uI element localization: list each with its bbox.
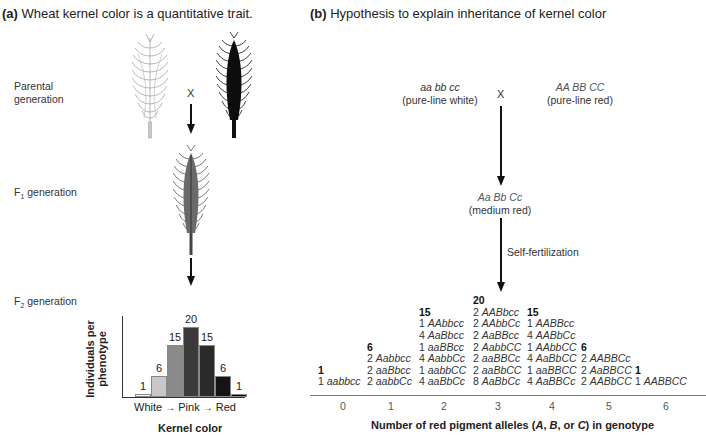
- ylabel-line2: phenotype: [96, 320, 108, 398]
- arrow-f1-to-f2: [190, 258, 192, 278]
- parent-white-desc: (pure-line white): [390, 94, 490, 107]
- histogram-value-3: 20: [180, 313, 202, 325]
- axis-tick-0: 0: [333, 400, 353, 412]
- self-fertilization-label: Self-fertilization: [507, 246, 579, 258]
- f1-generation-label: F1 generation: [14, 186, 77, 203]
- genotype-entry: 4 aaBbCc: [419, 376, 466, 388]
- cross-symbol-b: X: [497, 88, 504, 100]
- right-arrow-icon: →: [165, 402, 175, 413]
- histogram-ylabel: Individuals per phenotype: [85, 320, 107, 398]
- xscale-white: White: [134, 401, 162, 413]
- parent-white: aa bb cc (pure-line white): [390, 81, 490, 107]
- histogram-value-0: 1: [132, 380, 154, 392]
- cross-symbol-a: X: [187, 87, 194, 99]
- ylabel-line1: Individuals per: [84, 320, 96, 398]
- f1-desc: (medium red): [450, 204, 550, 217]
- panel-b-title: (b) Hypothesis to explain inheritance of…: [310, 6, 606, 21]
- histogram-value-1: 6: [148, 362, 170, 374]
- genotype-column-3: 20 2 AABbcc 2 AAbbCc 2 AaBBcc 2 AabbCC 2…: [473, 295, 521, 388]
- f1-genotype-block: Aa Bb Cc (medium red): [450, 191, 550, 217]
- genotype-column-1: 6 2 Aabbcc 2 aaBbcc 2 aabbCc: [367, 342, 412, 388]
- right-arrow-icon: →: [203, 402, 213, 413]
- arrow-head-icon: [187, 124, 195, 134]
- arrow-head-icon: [187, 276, 195, 286]
- parental-label-line1: Parental: [14, 80, 64, 93]
- genotype-column-5: 6 2 AABBCc 2 AaBBCC 2 AABbCC: [581, 342, 632, 388]
- axis-tick-3: 3: [488, 400, 508, 412]
- panel-a-title-text: Wheat kernel color is a quantitative tra…: [18, 6, 253, 21]
- panel-b-letter: (b): [310, 6, 327, 21]
- genotype-entry: 2 aabbCc: [367, 376, 412, 388]
- f2-generation-label: F2 generation: [14, 295, 77, 312]
- histogram-value-5: 6: [212, 362, 234, 374]
- axis-tick-4: 4: [542, 400, 562, 412]
- white-wheat-ear-icon: [128, 34, 172, 140]
- histogram-bar-0: [135, 394, 151, 398]
- genotype-entry: 1 AABBCC: [635, 376, 687, 388]
- histogram-value-4: 15: [196, 331, 218, 343]
- red-wheat-ear-icon: [212, 32, 256, 140]
- arrow-parental-to-f1: [190, 104, 192, 126]
- f2-suffix: generation: [24, 295, 77, 307]
- genotype-entry: 2 AABbCC: [581, 376, 632, 388]
- parent-red-desc: (pure-line red): [530, 94, 630, 107]
- genotype-axis-title: Number of red pigment alleles (A, B, or …: [371, 419, 654, 431]
- histogram-value-2: 15: [164, 331, 186, 343]
- genotype-entry: 4 AaBBCc: [527, 376, 577, 388]
- parent-red-genotype: AA BB CC: [556, 81, 605, 93]
- axis-title-prefix: Number of red pigment alleles (: [371, 419, 535, 431]
- arrow-head-icon: [497, 282, 505, 292]
- f1-suffix: generation: [24, 186, 77, 198]
- genotype-column-4: 15 1 AABBcc 4 AABbCc 1 AAbbCC 4 AaBbCC 1…: [527, 307, 577, 388]
- parent-white-genotype: aa bb cc: [420, 81, 460, 93]
- axis-title-suffix: ) in genotype: [586, 419, 654, 431]
- axis-tick-2: 2: [434, 400, 454, 412]
- genotype-column-2: 15 1 AAbbcc 4 AaBbcc 1 aaBBcc 4 AabbCc 1…: [419, 307, 466, 388]
- arrow-parents-to-f1: [500, 106, 502, 179]
- arrow-self-fertilization: [500, 218, 502, 268]
- genotype-column-6: 1 1 AABBCC: [635, 365, 687, 388]
- xscale-pink: Pink: [178, 401, 199, 413]
- pink-wheat-ear-icon: [170, 145, 212, 257]
- histogram-xscale: White → Pink → Red: [134, 401, 236, 413]
- genotype-axis-line: [310, 395, 706, 396]
- f1-genotype: Aa Bb Cc: [478, 191, 522, 203]
- axis-title-c: C: [578, 419, 586, 431]
- parental-generation-label: Parental generation: [14, 80, 64, 106]
- genotype-entry: 1 aabbcc: [318, 376, 361, 388]
- histogram-value-6: 1: [228, 380, 250, 392]
- axis-tick-5: 5: [599, 400, 619, 412]
- panel-a-letter: (a): [2, 6, 18, 21]
- genotype-entry: 8 AaBbCc: [473, 376, 521, 388]
- genotype-column-0: 1 1 aabbcc: [318, 365, 361, 388]
- panel-a-title: (a) Wheat kernel color is a quantitative…: [2, 6, 253, 21]
- panel-b-title-text: Hypothesis to explain inheritance of ker…: [327, 6, 607, 21]
- histogram-plot: 1 6 15 20 15 6 1: [122, 316, 245, 398]
- histogram-bar-6: [231, 394, 247, 398]
- xscale-red: Red: [216, 401, 236, 413]
- arrow-head-icon: [497, 176, 505, 186]
- parent-red: AA BB CC (pure-line red): [530, 81, 630, 107]
- histogram-xlabel-title: Kernel color: [158, 422, 222, 434]
- parental-label-line2: generation: [14, 93, 64, 106]
- axis-title-sep: , or: [557, 419, 577, 431]
- axis-tick-1: 1: [381, 400, 401, 412]
- axis-tick-6: 6: [656, 400, 676, 412]
